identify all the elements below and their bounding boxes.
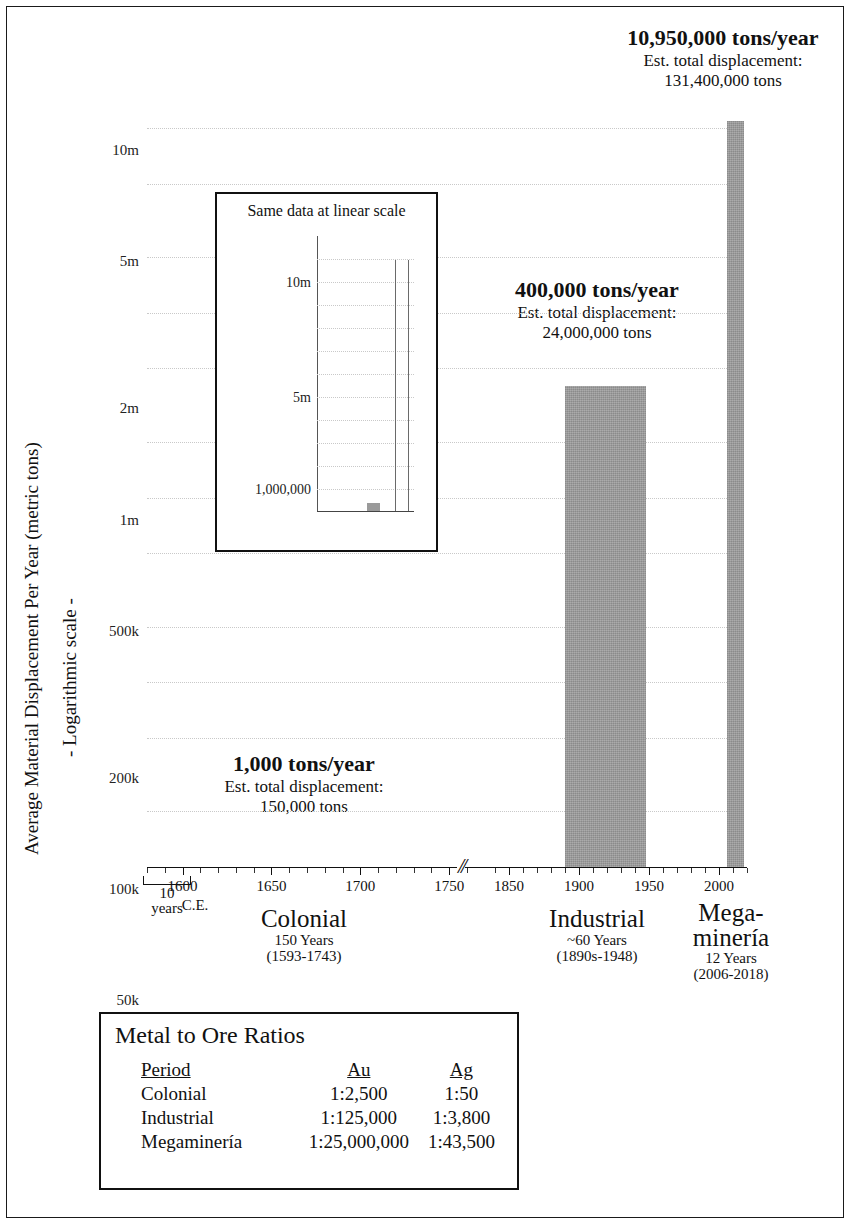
- period-name-colonial: Colonial: [261, 905, 347, 932]
- ratios-au-2: 1:25,000,000: [302, 1130, 416, 1154]
- x-major-tick: [360, 868, 361, 875]
- x-tick-label: 1900: [564, 878, 594, 895]
- x-minor-tick: [200, 868, 201, 873]
- y-tick-label: 10m: [112, 142, 139, 159]
- x-minor-tick: [621, 868, 622, 873]
- ratios-table: Period Au Ag Colonial 1:2,500 1:50 Indus…: [127, 1058, 507, 1154]
- ratios-header-row: Period Au Ag: [127, 1058, 507, 1082]
- period-range-colonial: (1593-1743): [261, 948, 347, 964]
- x-minor-tick: [607, 868, 608, 873]
- x-minor-tick: [325, 868, 326, 873]
- inset-baseline: [317, 511, 414, 512]
- scale-value: 10: [160, 885, 175, 901]
- bar-megaminera: [727, 121, 744, 867]
- x-minor-tick: [523, 868, 524, 873]
- x-minor-tick: [147, 868, 148, 873]
- x-minor-tick: [218, 868, 219, 873]
- period-caption-colonial: Colonial 150 Years (1593-1743): [261, 905, 347, 964]
- ratios-ag-2: 1:43,500: [416, 1130, 507, 1154]
- annotation-megamineria-total-value: 131,400,000 tons: [627, 71, 818, 91]
- inset-linear-chart: Same data at linear scale 1,000,0005m10m: [215, 192, 438, 552]
- inset-bar-megaminera: [395, 260, 409, 512]
- x-tick-label: 1700: [345, 878, 375, 895]
- inset-title: Same data at linear scale: [217, 202, 436, 220]
- figure-frame: Average Material Displacement Per Year (…: [6, 6, 844, 1218]
- ratios-title: Metal to Ore Ratios: [115, 1022, 305, 1049]
- x-minor-tick: [551, 868, 552, 873]
- x-minor-tick: [733, 868, 734, 873]
- x-major-tick: [449, 868, 450, 875]
- gridline: 10m: [147, 128, 739, 129]
- ratios-ag-0: 1:50: [416, 1082, 507, 1106]
- bar-industrial: [565, 386, 646, 867]
- period-caption-megamineria: Mega- minería 12 Years (2006-2018): [693, 900, 769, 982]
- annotation-megamineria: 10,950,000 tons/year Est. total displace…: [627, 25, 818, 91]
- period-duration-industrial: ~60 Years: [549, 932, 645, 948]
- x-minor-tick: [307, 868, 308, 873]
- x-minor-tick: [165, 868, 166, 873]
- y-tick-label: 100k: [109, 881, 139, 898]
- x-tick-label: 2000: [704, 878, 734, 895]
- x-minor-tick: [343, 868, 344, 873]
- x-minor-tick: [593, 868, 594, 873]
- inset-y-tick-label: 10m: [286, 275, 311, 291]
- x-minor-tick: [378, 868, 379, 873]
- ratios-au-1: 1:125,000: [302, 1106, 416, 1130]
- x-minor-tick: [236, 868, 237, 873]
- gridline: 5m: [147, 184, 739, 185]
- x-minor-tick: [467, 868, 468, 873]
- x-major-tick: [579, 868, 580, 875]
- annotation-megamineria-rate: 10,950,000 tons/year: [627, 25, 818, 51]
- gridline: 20k: [147, 627, 739, 628]
- period-name-megamineria-line2: minería: [693, 925, 769, 950]
- x-minor-tick: [663, 868, 664, 873]
- period-range-megamineria: (2006-2018): [693, 966, 769, 982]
- ce-label: C.E.: [182, 897, 209, 914]
- y-tick-label: 1m: [120, 511, 139, 528]
- ratios-period-1: Industrial: [127, 1106, 302, 1130]
- inset-plot-area: 1,000,0005m10m: [317, 236, 414, 512]
- period-name-megamineria-line1: Mega-: [693, 900, 769, 925]
- ratios-period-2: Megaminería: [127, 1130, 302, 1154]
- gridline: 5k: [147, 738, 739, 739]
- x-tick-label: 1950: [634, 878, 664, 895]
- period-name-industrial: Industrial: [549, 905, 645, 932]
- x-minor-tick: [537, 868, 538, 873]
- x-tick-label: 1650: [256, 878, 286, 895]
- period-caption-industrial: Industrial ~60 Years (1890s-1948): [549, 905, 645, 964]
- x-minor-tick: [254, 868, 255, 873]
- x-major-tick: [719, 868, 720, 875]
- x-minor-tick: [565, 868, 566, 873]
- x-minor-tick: [396, 868, 397, 873]
- ratios-au-0: 1:2,500: [302, 1082, 416, 1106]
- ratios-header-au: Au: [302, 1058, 416, 1082]
- gridline: 50k: [147, 553, 739, 554]
- inset-y-tick-label: 5m: [293, 390, 311, 406]
- x-major-tick: [183, 868, 184, 875]
- ratios-ag-1: 1:3,800: [416, 1106, 507, 1130]
- x-tick-label: 1850: [494, 878, 524, 895]
- ratios-header-period: Period: [127, 1058, 302, 1082]
- annotation-megamineria-total-label: Est. total displacement:: [627, 51, 818, 71]
- y-tick-label: 5m: [120, 253, 139, 270]
- y-tick-label: 50k: [117, 992, 140, 1009]
- scale-bracket-icon: [143, 876, 191, 885]
- y-tick-label: 500k: [109, 622, 139, 639]
- y-tick-label: 200k: [109, 769, 139, 786]
- x-minor-tick: [289, 868, 290, 873]
- x-minor-tick: [677, 868, 678, 873]
- table-row: Industrial 1:125,000 1:3,800: [127, 1106, 507, 1130]
- x-major-tick: [509, 868, 510, 875]
- period-duration-colonial: 150 Years: [261, 932, 347, 948]
- ratios-header-ag: Ag: [416, 1058, 507, 1082]
- x-tick-label: 1750: [434, 878, 464, 895]
- axis-break-icon: //: [457, 855, 465, 877]
- inset-y-tick-label: 1,000,000: [255, 482, 311, 498]
- x-minor-tick: [705, 868, 706, 873]
- period-duration-megamineria: 12 Years: [693, 950, 769, 966]
- ratios-period-0: Colonial: [127, 1082, 302, 1106]
- x-minor-tick: [635, 868, 636, 873]
- y-tick-label: 2m: [120, 400, 139, 417]
- x-major-tick: [649, 868, 650, 875]
- period-range-industrial: (1890s-1948): [549, 948, 645, 964]
